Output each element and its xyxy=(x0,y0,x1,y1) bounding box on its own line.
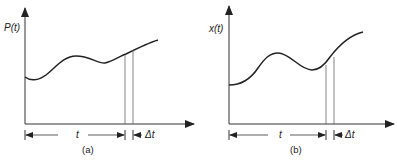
curve xyxy=(229,32,363,85)
caption-b: (b) xyxy=(290,144,302,155)
figure: P(t) t Δt (a) x(t) t Δt (b) xyxy=(0,0,397,162)
t-label: t xyxy=(279,129,283,140)
y-axis-label: x(t) xyxy=(208,23,223,34)
y-axis-label: P(t) xyxy=(4,22,20,33)
t-label: t xyxy=(76,129,80,140)
panel-a: P(t) t Δt (a) xyxy=(4,8,194,155)
delta-t-label: Δt xyxy=(144,129,156,140)
panel-b: x(t) t Δt (b) xyxy=(208,6,394,155)
delta-t-label: Δt xyxy=(344,129,356,140)
caption-a: (a) xyxy=(82,144,94,155)
curve xyxy=(25,40,158,80)
